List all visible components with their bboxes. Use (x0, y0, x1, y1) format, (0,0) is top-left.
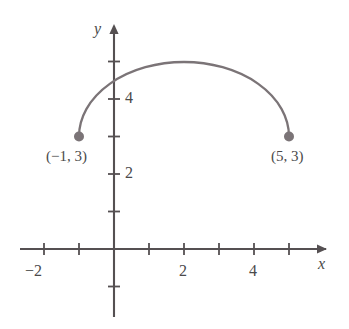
y-tick-label-2: 2 (125, 164, 133, 182)
x-tick-label--2: −2 (25, 262, 42, 280)
endpoint-marker-right (284, 132, 294, 142)
x-tick-label-2: 2 (179, 262, 187, 280)
x-tick-label-4: 4 (249, 262, 257, 280)
x-axis-arrowhead (317, 244, 327, 253)
x-axis-label: x (318, 255, 325, 273)
endpoint-marker-left (74, 132, 84, 142)
y-axis-label: y (94, 20, 101, 38)
axes-group (20, 24, 327, 317)
arc-graph-figure: y x −2 2 4 4 2 (−1, 3) (5, 3) (0, 0, 349, 329)
y-axis-arrowhead (109, 24, 118, 34)
right-endpoint-label: (5, 3) (271, 148, 304, 165)
left-endpoint-label: (−1, 3) (46, 148, 87, 165)
y-tick-label-4: 4 (125, 89, 133, 107)
